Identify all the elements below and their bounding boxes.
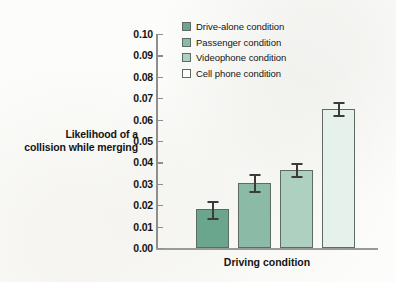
bar-chart-figure: Likelihood of a collision while merging …: [0, 0, 396, 282]
error-bar: [212, 201, 214, 218]
y-axis-tick-label: 0.02: [119, 199, 153, 211]
y-axis-tick-label: 0.05: [119, 135, 153, 147]
y-axis-tick-label: 0.07: [119, 92, 153, 104]
y-axis-tick: 0.02: [158, 205, 163, 206]
legend-swatch-icon: [182, 69, 191, 78]
legend-swatch-icon: [182, 38, 191, 47]
y-axis-tick: 0.03: [158, 184, 163, 185]
error-bar-cap: [291, 176, 302, 178]
error-bar-cap: [333, 102, 344, 104]
y-axis-tick-label: 0.00: [119, 242, 153, 254]
legend-item-label: Passenger condition: [196, 37, 281, 48]
y-axis-tick: 0.08: [158, 77, 163, 78]
y-axis-tick: 0.04: [158, 162, 163, 163]
y-axis-tick: 0.09: [158, 55, 163, 56]
error-bar-cap: [207, 201, 218, 203]
x-axis-label: Driving condition: [156, 256, 378, 268]
error-bar-cap: [249, 174, 260, 176]
y-axis-tick-label: 0.04: [119, 156, 153, 168]
legend-item[interactable]: Cell phone condition: [182, 66, 286, 82]
legend-swatch-icon: [182, 53, 191, 62]
y-axis-tick-label: 0.06: [119, 114, 153, 126]
y-axis-tick: 0.07: [158, 98, 163, 99]
y-axis-tick: 0.00: [158, 248, 163, 249]
x-axis-line: [156, 248, 378, 250]
bar: [322, 109, 355, 248]
error-bar: [254, 174, 256, 191]
error-bar-cap: [249, 191, 260, 193]
legend-item[interactable]: Passenger condition: [182, 35, 286, 51]
y-axis-tick-label: 0.10: [119, 28, 153, 40]
y-axis-tick-label: 0.09: [119, 49, 153, 61]
bar: [280, 170, 313, 248]
legend-item[interactable]: Drive-alone condition: [182, 19, 286, 35]
legend-item[interactable]: Videophone condition: [182, 50, 286, 66]
y-axis-tick: 0.01: [158, 227, 163, 228]
error-bar-cap: [207, 218, 218, 220]
y-axis-tick: 0.05: [158, 141, 163, 142]
legend-item-label: Cell phone condition: [196, 68, 281, 79]
error-bar-cap: [291, 163, 302, 165]
chart-legend: Drive-alone conditionPassenger condition…: [182, 19, 286, 81]
y-axis-tick-label: 0.03: [119, 178, 153, 190]
legend-swatch-icon: [182, 22, 191, 31]
error-bar-cap: [333, 115, 344, 117]
y-axis-tick: 0.06: [158, 120, 163, 121]
y-axis-tick-label: 0.08: [119, 71, 153, 83]
y-axis-tick-label: 0.01: [119, 221, 153, 233]
legend-item-label: Videophone condition: [196, 52, 286, 63]
y-axis-tick: 0.10: [158, 34, 163, 35]
legend-item-label: Drive-alone condition: [196, 21, 284, 32]
